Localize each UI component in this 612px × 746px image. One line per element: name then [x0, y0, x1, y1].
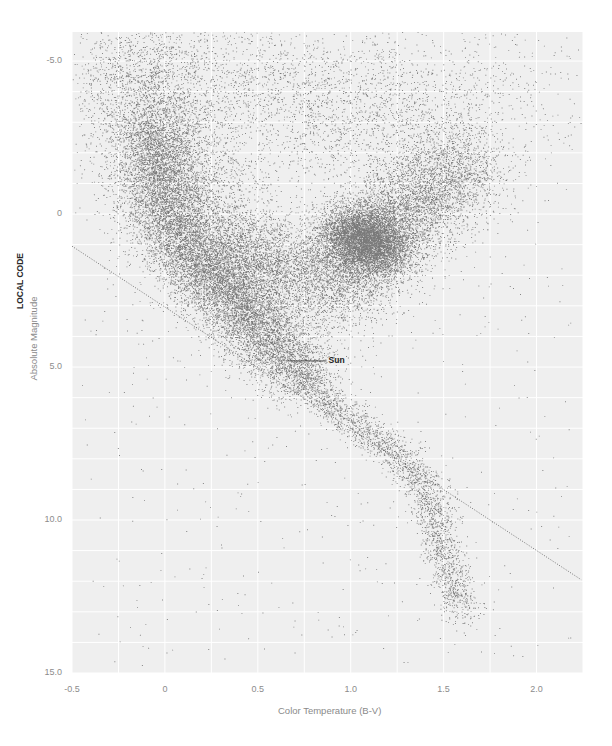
y-tick-label: 0: [22, 208, 62, 218]
y-tick-label: 15.0: [22, 667, 62, 677]
x-tick-label: 2.0: [517, 684, 557, 694]
x-tick-label: 0: [145, 684, 185, 694]
plot-area: [0, 0, 612, 746]
y-axis-title: Absolute Magnitude: [28, 294, 39, 384]
local-code-label: LOCAL CODE: [15, 251, 25, 311]
x-tick-label: -0.5: [52, 684, 92, 694]
sun-annotation: Sun: [329, 355, 345, 365]
y-tick-label: -5.0: [22, 55, 62, 65]
x-axis-title: Color Temperature (B-V): [278, 705, 381, 716]
hr-diagram: -5.0 0 5.0 10.0 15.0 -0.5 0 0.5 1.0 1.5 …: [0, 0, 612, 746]
x-tick-label: 1.0: [331, 684, 371, 694]
y-tick-label: 10.0: [22, 514, 62, 524]
plot-background: [72, 32, 583, 673]
x-tick-label: 0.5: [238, 684, 278, 694]
x-tick-label: 1.5: [424, 684, 464, 694]
